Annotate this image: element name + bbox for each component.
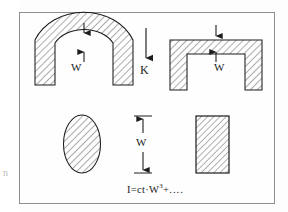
load-symbol-label: K	[140, 64, 149, 76]
stiffness-formula: I=ct·W3+....	[127, 183, 184, 195]
height-dimension-label: W	[136, 137, 146, 148]
diagram-vector-layer	[0, 0, 288, 212]
portal-thickness-label: W	[214, 62, 224, 73]
arch-thickness-label: W	[71, 62, 81, 73]
formula-ellipsis: ....	[169, 184, 184, 195]
figure-root: n	[0, 0, 288, 212]
rectangle-section-shape	[196, 116, 229, 173]
ellipse-section-shape	[64, 115, 101, 173]
formula-coefficient: ct	[137, 184, 145, 195]
formula-variable: W	[149, 184, 159, 195]
